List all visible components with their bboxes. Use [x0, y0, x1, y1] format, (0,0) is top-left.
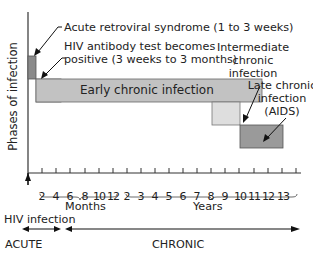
stage-chronic-label: CHRONIC — [152, 238, 204, 251]
month-tick: 4 — [53, 190, 60, 203]
year-tick: 3 — [138, 190, 145, 203]
annotation-late-line1: Late chronic — [247, 79, 313, 92]
annotation-antibody-line1: HIV antibody test becomes — [64, 40, 215, 53]
annotation-intermediate-line1: Intermediate — [208, 41, 298, 54]
annotation-late-line3: (AIDS) — [247, 105, 313, 118]
phase-early-label: Early chronic infection — [80, 84, 214, 97]
annotation-intermediate-line2: chronic — [208, 54, 298, 67]
month-tick: 12 — [107, 190, 119, 203]
hiv-infection-arrow-head — [25, 173, 31, 181]
year-tick: 12 — [262, 190, 274, 203]
x-axis-ticks — [42, 168, 296, 173]
annotation-late-line2: infection — [247, 92, 313, 105]
year-tick: 4 — [152, 190, 159, 203]
months-label: Months — [65, 200, 106, 213]
year-tick: 13 — [277, 190, 289, 203]
year-tick: 10 — [234, 190, 246, 203]
stage-acute-label: ACUTE — [5, 238, 42, 251]
hiv-infection-label: HIV infection — [4, 213, 76, 226]
month-tick: 2 — [39, 190, 46, 203]
year-tick: 11 — [248, 190, 260, 203]
annotation-acute-retroviral: Acute retroviral syndrome (1 to 3 weeks) — [64, 21, 293, 34]
phase-acute-bar — [28, 56, 36, 79]
y-axis-label: Phases of infection — [7, 42, 20, 152]
year-tick: 2 — [124, 190, 131, 203]
phase-intermediate-bar — [212, 102, 240, 125]
year-tick: 5 — [166, 190, 173, 203]
years-label: Years — [193, 200, 223, 213]
year-tick: 6 — [180, 190, 187, 203]
